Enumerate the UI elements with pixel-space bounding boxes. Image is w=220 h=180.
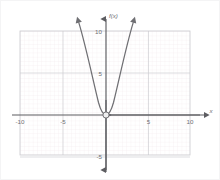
y-axis-name-label: f(x)	[109, 12, 118, 19]
minor-gridlines	[20, 31, 190, 155]
x-tick-label-neg5: -5	[60, 118, 66, 125]
coordinate-plane-svg: -10 -5 5 10 10 5 -5 f(x) x	[0, 0, 220, 180]
y-tick-label-neg5: -5	[96, 153, 102, 160]
x-tick-label-neg10: -10	[16, 118, 26, 125]
figure-frame: -10 -5 5 10 10 5 -5 f(x) x	[0, 0, 220, 180]
graph-figure: -10 -5 5 10 10 5 -5 f(x) x	[0, 0, 220, 180]
x-tick-label-pos10: 10	[187, 118, 194, 125]
vertex-open-circle-marker	[103, 112, 109, 118]
x-tick-label-pos5: 5	[147, 118, 151, 125]
y-tick-label-pos5: 5	[99, 70, 103, 77]
y-tick-label-pos10: 10	[95, 28, 102, 35]
